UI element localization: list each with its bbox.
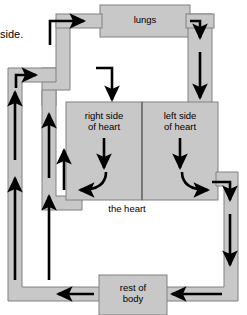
page-text-fragment: side.: [0, 28, 23, 40]
node-label-left-side-of-heart: left side of heart: [142, 110, 218, 132]
node-label-rest-of-body: rest of body: [99, 282, 167, 304]
node-label-right-side-of-heart: right side of heart: [66, 110, 142, 132]
node-label-the-heart: the heart: [97, 203, 157, 214]
circulation-svg: [0, 0, 247, 315]
double-circulation-diagram: side. lungs right side of heart left sid…: [0, 0, 247, 315]
vessel-shapes: [8, 5, 238, 315]
node-label-lungs: lungs: [100, 14, 190, 25]
arrow-into-right-heart-top: [96, 68, 112, 100]
